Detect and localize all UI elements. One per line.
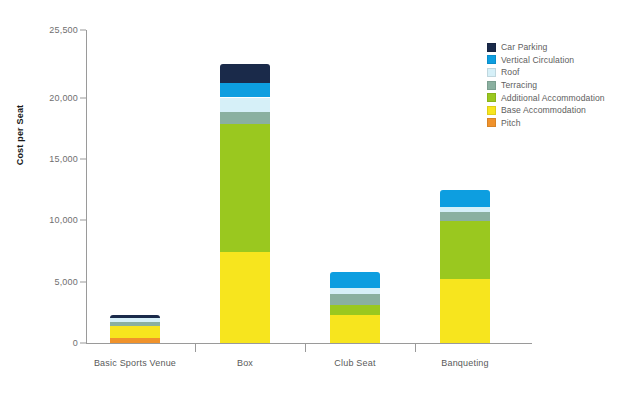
legend-swatch-icon <box>487 43 496 52</box>
legend-swatch-icon <box>487 68 496 77</box>
legend-item[interactable]: Pitch <box>487 117 617 130</box>
bar-segment-additional-accommodation[interactable] <box>440 221 490 278</box>
bar-segment-vertical-circulation[interactable] <box>440 190 490 208</box>
bar-segment-vertical-circulation[interactable] <box>330 272 380 288</box>
bar-segment-terracing[interactable] <box>330 294 380 305</box>
y-tick-mark <box>80 343 86 344</box>
bar-segment-base-accommodation[interactable] <box>440 279 490 343</box>
legend-swatch-icon <box>487 106 496 115</box>
y-tick-mark <box>80 220 86 221</box>
y-axis-line <box>86 30 87 344</box>
bar-segment-terracing[interactable] <box>110 322 160 326</box>
y-tick-label: 5,000 <box>32 277 78 287</box>
bar-box[interactable] <box>220 30 270 343</box>
x-axis-separator <box>305 343 306 352</box>
bar-banqueting[interactable] <box>440 30 490 343</box>
x-axis-separator <box>415 343 416 352</box>
x-axis-separator <box>195 343 196 352</box>
legend-item[interactable]: Car Parking <box>487 41 617 54</box>
legend-item[interactable]: Additional Accommodation <box>487 91 617 104</box>
y-tick-mark <box>80 158 86 159</box>
legend-label: Terracing <box>501 80 537 90</box>
bar-segment-vertical-circulation[interactable] <box>220 83 270 98</box>
legend-label: Additional Accommodation <box>501 93 605 103</box>
chart-legend: Car ParkingVertical CirculationRoofTerra… <box>487 41 617 129</box>
x-tick-label: Basic Sports Venue <box>94 358 176 368</box>
bar-segment-base-accommodation[interactable] <box>220 252 270 343</box>
bar-club-seat[interactable] <box>330 30 380 343</box>
y-tick-label: 10,000 <box>32 215 78 225</box>
legend-swatch-icon <box>487 93 496 102</box>
y-tick-mark <box>80 30 86 31</box>
bar-segment-terracing[interactable] <box>220 112 270 124</box>
x-tick-label: Banqueting <box>441 358 489 368</box>
y-tick-label: 20,000 <box>32 93 78 103</box>
bar-segment-terracing[interactable] <box>440 212 490 222</box>
bar-segment-additional-accommodation[interactable] <box>330 305 380 315</box>
bar-segment-roof[interactable] <box>110 318 160 321</box>
legend-item[interactable]: Terracing <box>487 79 617 92</box>
bar-segment-base-accommodation[interactable] <box>330 315 380 343</box>
bar-segment-car-parking[interactable] <box>110 315 160 318</box>
legend-label: Roof <box>501 67 520 77</box>
x-tick-label: Box <box>237 358 253 368</box>
bar-segment-roof[interactable] <box>220 98 270 112</box>
y-tick-mark <box>80 97 86 98</box>
x-tick-label: Club Seat <box>334 358 375 368</box>
legend-swatch-icon <box>487 118 496 127</box>
legend-label: Car Parking <box>501 42 547 52</box>
legend-item[interactable]: Vertical Circulation <box>487 54 617 67</box>
bar-segment-base-accommodation[interactable] <box>110 326 160 338</box>
y-tick-label: 15,000 <box>32 154 78 164</box>
bar-segment-car-parking[interactable] <box>220 64 270 83</box>
x-axis-line <box>86 343 532 344</box>
legend-item[interactable]: Base Accommodation <box>487 104 617 117</box>
legend-label: Pitch <box>501 118 521 128</box>
y-axis-title: Cost per Seat <box>15 90 25 180</box>
y-tick-mark <box>80 281 86 282</box>
bar-segment-roof[interactable] <box>330 288 380 294</box>
bar-segment-pitch[interactable] <box>110 338 160 343</box>
bar-basic-sports-venue[interactable] <box>110 30 160 343</box>
legend-swatch-icon <box>487 55 496 64</box>
legend-item[interactable]: Roof <box>487 66 617 79</box>
y-tick-label: 0 <box>32 338 78 348</box>
bar-segment-roof[interactable] <box>440 207 490 211</box>
bar-segment-additional-accommodation[interactable] <box>220 124 270 252</box>
legend-label: Base Accommodation <box>501 105 586 115</box>
legend-swatch-icon <box>487 81 496 90</box>
y-tick-label: 25,500 <box>32 25 78 35</box>
stacked-bar-chart: Cost per Seat 05,00010,00015,00020,00025… <box>0 0 620 393</box>
legend-label: Vertical Circulation <box>501 55 574 65</box>
